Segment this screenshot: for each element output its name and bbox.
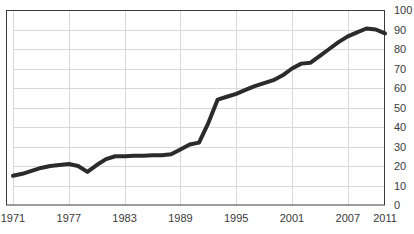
y-axis-tick-label: 40 [394, 121, 406, 133]
x-axis-tick-labels: 19711977198319891995200120072011 [1, 212, 397, 224]
y-axis-tick-label: 0 [394, 199, 400, 211]
x-axis-tick-label: 2001 [280, 212, 304, 224]
x-axis-tick-label: 1983 [112, 212, 136, 224]
y-axis-tick-label: 70 [394, 63, 406, 75]
x-axis-tick-label: 2007 [336, 212, 360, 224]
y-axis-tick-label: 20 [394, 160, 406, 172]
x-axis-tick-label: 1989 [168, 212, 192, 224]
y-axis-tick-labels: 0102030405060708090100 [394, 4, 412, 211]
x-axis-tick-label: 1971 [1, 212, 25, 224]
y-axis-tick-label: 90 [394, 24, 406, 36]
x-axis-tick-label: 2011 [373, 212, 397, 224]
x-axis-tick-label: 1995 [224, 212, 248, 224]
y-axis-tick-label: 30 [394, 141, 406, 153]
y-axis-tick-label: 80 [394, 43, 406, 55]
y-axis-tick-label: 60 [394, 82, 406, 94]
y-axis-tick-label: 100 [394, 4, 412, 16]
chart-canvas: 0102030405060708090100197119771983198919… [0, 0, 414, 234]
line-chart: 0102030405060708090100197119771983198919… [0, 0, 414, 234]
plot-area-background [13, 10, 385, 205]
y-axis-tick-label: 50 [394, 102, 406, 114]
x-axis-tick-label: 1977 [57, 212, 81, 224]
y-axis-tick-label: 10 [394, 180, 406, 192]
